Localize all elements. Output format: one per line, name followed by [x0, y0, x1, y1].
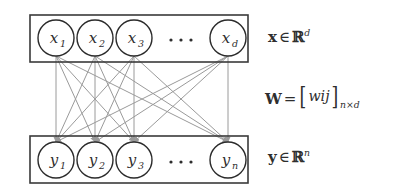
- input-node-subscript-x1: 1: [60, 38, 66, 49]
- input-ellipsis-icon: [169, 38, 192, 41]
- input-node-subscript-x3: 3: [138, 38, 144, 49]
- input-dimension-exponent: d: [304, 27, 310, 38]
- weight-edges: [56, 56, 228, 142]
- output-node-label-y2: y: [88, 151, 98, 169]
- input-node-label-x1: x: [50, 29, 59, 47]
- output-node-label-yn: y: [221, 151, 231, 169]
- output-nodes: y1y2y3yn: [38, 142, 246, 178]
- input-ellipsis-dot: [179, 38, 182, 41]
- output-node-subscript-y3: 3: [138, 160, 144, 171]
- input-node-label-xd: x: [222, 29, 231, 47]
- output-ellipsis-dot: [189, 160, 192, 163]
- output-node-label-y3: y: [127, 151, 137, 169]
- output-ellipsis-dot: [179, 160, 182, 163]
- output-dimension-exponent: n: [304, 147, 310, 158]
- input-node-label-x2: x: [89, 29, 98, 47]
- input-node-subscript-x2: 2: [98, 38, 105, 49]
- weight-matrix-label: W=[wij]n×d: [265, 84, 360, 109]
- output-ellipsis-dot: [169, 160, 172, 163]
- output-node-subscript-y1: 1: [60, 160, 66, 171]
- output-node-subscript-yn: n: [232, 160, 238, 171]
- input-ellipsis-dot: [169, 38, 172, 41]
- input-nodes: x1x2x3xd: [38, 20, 246, 56]
- weight-entry: wij: [308, 89, 331, 103]
- output-node-subscript-y2: 2: [98, 160, 105, 171]
- output-space-label: y∈ℝn: [268, 148, 310, 165]
- input-space-label: x∈ℝd: [268, 28, 310, 45]
- network-diagram: x1x2x3xd y1y2y3yn x∈ℝd W=[wij]n×d y∈ℝn: [0, 0, 403, 191]
- input-ellipsis-dot: [189, 38, 192, 41]
- output-ellipsis-icon: [169, 160, 192, 163]
- weight-dimensions: n×d: [340, 99, 360, 110]
- output-node-label-y1: y: [49, 151, 59, 169]
- input-node-subscript-xd: d: [232, 38, 238, 49]
- input-node-label-x3: x: [128, 29, 137, 47]
